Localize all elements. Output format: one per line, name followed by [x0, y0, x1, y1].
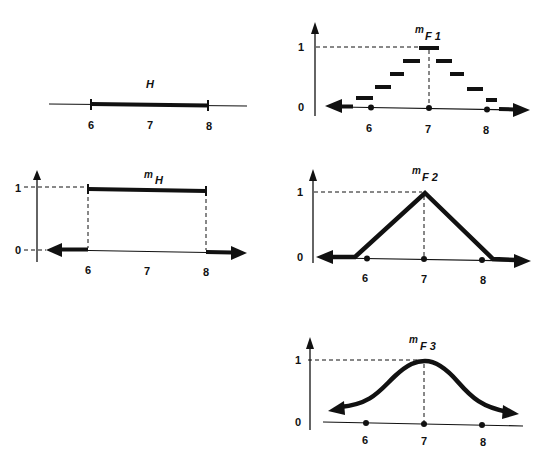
y-label-0: 0	[297, 251, 303, 263]
tick-label-6: 6	[88, 119, 94, 131]
y-label-0: 0	[295, 416, 301, 428]
tick-label-7: 7	[425, 123, 431, 135]
tick-label-8: 8	[483, 124, 489, 136]
tick-dot-6	[368, 105, 374, 111]
tick-label-6: 6	[366, 122, 372, 134]
tick-dot-8	[479, 422, 485, 428]
left-arrow-icon	[316, 250, 333, 264]
tick-label-8: 8	[480, 436, 486, 448]
panel-m-f3: m F 3 1 0 6 7 8	[295, 329, 523, 448]
tick-dot-7	[421, 256, 427, 262]
interval-segment	[91, 104, 208, 106]
y-axis-arrow-icon	[33, 170, 41, 180]
right-arrow-icon	[231, 246, 247, 260]
tick-label-7: 7	[144, 265, 150, 277]
m-f2-title: m F 2	[412, 160, 438, 183]
tick-dot-6	[364, 256, 370, 262]
tick-label-7: 7	[421, 273, 427, 285]
tick-dot-8	[484, 107, 490, 113]
membership-one-bar	[88, 189, 206, 191]
tick-dot-8	[479, 257, 485, 263]
tick-label-8: 8	[480, 274, 486, 286]
tick-label-6: 6	[362, 272, 368, 284]
m-f3-title: m F 3	[409, 329, 436, 352]
panel-m-f1: m F 1 1 0 6 7 8	[298, 19, 530, 136]
diagram-canvas: H 6 7 8 m H 1 0 6 7 8	[0, 0, 543, 454]
left-arrow-icon	[328, 401, 345, 415]
tick-label-7: 7	[147, 119, 153, 131]
right-arrow-icon	[502, 405, 519, 419]
tick-dot-7	[421, 421, 427, 427]
y-axis-arrow-icon	[311, 22, 319, 34]
right-arrow-icon	[513, 103, 530, 117]
y-label-1: 1	[297, 186, 303, 198]
y-axis-arrow-icon	[309, 169, 317, 181]
y-label-1: 1	[15, 182, 21, 194]
left-arrow-icon	[46, 243, 62, 257]
membership-zero-right	[206, 252, 232, 253]
panel-m-h: m H 1 0 6 7 8	[15, 164, 247, 278]
left-arrow-icon	[325, 99, 342, 113]
tick-label-8: 8	[203, 266, 209, 278]
y-label-1: 1	[298, 41, 304, 53]
m-f1-title: m F 1	[415, 19, 441, 42]
y-label-0: 0	[298, 101, 304, 113]
tick-label-8: 8	[206, 120, 212, 132]
step-bars	[356, 48, 497, 100]
step-zero-right	[499, 109, 514, 110]
tick-label-7: 7	[421, 435, 427, 447]
right-arrow-icon	[514, 254, 531, 268]
m-h-title: m H	[144, 164, 164, 186]
panel-h-interval: H 6 7 8	[49, 78, 247, 132]
panel-m-f2: m F 2 1 0 6 7 8	[297, 160, 531, 286]
tick-label-6: 6	[362, 434, 368, 446]
h-interval-title: H	[146, 78, 155, 90]
tick-label-6: 6	[85, 264, 91, 276]
tick-dot-7	[426, 105, 432, 111]
y-label-1: 1	[295, 354, 301, 366]
y-label-0: 0	[15, 244, 21, 256]
tick-dot-6	[363, 420, 369, 426]
y-axis-arrow-icon	[306, 337, 314, 349]
